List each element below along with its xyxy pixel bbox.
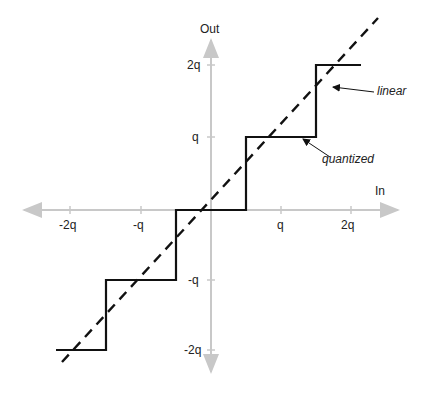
- x-tick-label: -2q: [59, 218, 76, 232]
- linear-curve: [62, 18, 378, 362]
- linear-pointer: [333, 87, 374, 92]
- y-tick-label: q: [192, 130, 199, 144]
- quantized-label: quantized: [322, 152, 374, 166]
- y-tick-label: -q: [188, 273, 199, 287]
- x-tick-label: 2q: [341, 218, 354, 232]
- y-axis-label: Out: [200, 22, 219, 36]
- quantized-curve: [56, 65, 361, 350]
- x-tick-label: -q: [133, 218, 144, 232]
- y-tick-label: 2q: [187, 58, 200, 72]
- x-tick-label: q: [277, 218, 284, 232]
- quantizer-diagram: [0, 0, 433, 393]
- y-tick-label: -2q: [184, 343, 201, 357]
- linear-label: linear: [377, 84, 406, 98]
- x-axis-label: In: [375, 184, 385, 198]
